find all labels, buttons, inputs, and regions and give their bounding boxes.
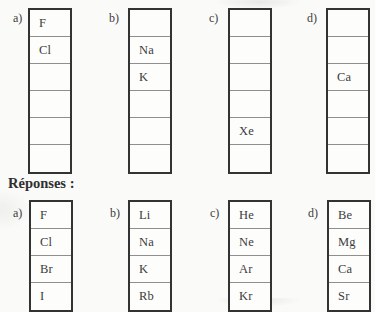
element-cell-He: He xyxy=(230,202,270,229)
element-cell-Br: Br xyxy=(31,256,71,283)
empty-cell xyxy=(328,118,368,145)
question-label-b: b) xyxy=(109,11,119,25)
element-cell-Sr: Sr xyxy=(329,283,369,310)
empty-cell xyxy=(328,37,368,64)
answer-label-b: b) xyxy=(110,206,120,220)
element-cell-Li: Li xyxy=(130,202,170,229)
empty-cell xyxy=(30,64,70,91)
question-label-c: c) xyxy=(209,11,218,25)
element-cell-F: F xyxy=(31,202,71,229)
question-column-d: Ca xyxy=(326,8,370,174)
element-cell-Xe: Xe xyxy=(230,118,270,145)
empty-cell xyxy=(30,91,70,118)
empty-cell xyxy=(130,145,170,172)
answer-column-d: BeMgCaSr xyxy=(327,200,371,312)
empty-cell xyxy=(130,118,170,145)
empty-cell xyxy=(230,145,270,172)
empty-cell xyxy=(328,145,368,172)
element-cell-Rb: Rb xyxy=(130,283,170,310)
element-cell-Na: Na xyxy=(130,37,170,64)
empty-cell xyxy=(328,91,368,118)
empty-cell xyxy=(230,64,270,91)
element-cell-Be: Be xyxy=(329,202,369,229)
answer-label-a: a) xyxy=(13,206,22,220)
element-cell-Ne: Ne xyxy=(230,229,270,256)
empty-cell xyxy=(230,10,270,37)
empty-cell xyxy=(130,10,170,37)
empty-cell xyxy=(30,118,70,145)
answers-heading: Réponses : xyxy=(8,175,74,192)
answer-label-c: c) xyxy=(210,206,219,220)
answer-column-b: LiNaKRb xyxy=(128,200,172,312)
empty-cell xyxy=(230,91,270,118)
element-cell-I: I xyxy=(31,283,71,310)
element-cell-K: K xyxy=(130,256,170,283)
element-cell-Cl: Cl xyxy=(31,229,71,256)
element-cell-F: F xyxy=(30,10,70,37)
empty-cell xyxy=(328,10,368,37)
answer-column-a: FClBrI xyxy=(29,200,73,312)
element-cell-K: K xyxy=(130,64,170,91)
empty-cell xyxy=(130,91,170,118)
empty-cell xyxy=(30,145,70,172)
element-cell-Na: Na xyxy=(130,229,170,256)
empty-cell xyxy=(230,37,270,64)
question-column-c: Xe xyxy=(228,8,272,174)
element-cell-Ca: Ca xyxy=(329,256,369,283)
answer-column-c: HeNeArKr xyxy=(228,200,272,312)
answer-label-d: d) xyxy=(308,206,318,220)
element-cell-Ca: Ca xyxy=(328,64,368,91)
element-cell-Cl: Cl xyxy=(30,37,70,64)
element-cell-Ar: Ar xyxy=(230,256,270,283)
element-cell-Kr: Kr xyxy=(230,283,270,310)
question-label-d: d) xyxy=(307,11,317,25)
element-cell-Mg: Mg xyxy=(329,229,369,256)
question-label-a: a) xyxy=(13,11,22,25)
question-column-b: NaK xyxy=(128,8,172,174)
question-column-a: FCl xyxy=(28,8,72,174)
